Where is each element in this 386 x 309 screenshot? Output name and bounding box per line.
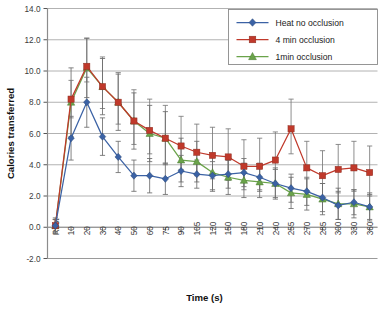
x-axis-tick-label: 180 (240, 221, 249, 235)
x-axis: Rest102030405060759010512015018021024025… (48, 218, 378, 236)
x-axis-tick-label: 240 (272, 221, 281, 235)
data-point-diamond (178, 167, 185, 174)
data-point-diamond (162, 175, 169, 182)
x-axis-tick-label: 40 (114, 226, 123, 236)
y-axis-tick-label: 14.0 (25, 5, 41, 14)
data-point-diamond (241, 169, 248, 176)
x-axis-tick-label: 285 (319, 221, 328, 235)
y-axis-tick-label: -2.0 (26, 255, 41, 264)
x-axis-tick-label: 60 (146, 226, 155, 236)
y-axis-tick-label: 2.0 (29, 192, 41, 201)
data-point-square (272, 157, 278, 163)
line-chart: 14.012.010.08.06.04.02.00.0-2.0Rest10203… (0, 0, 386, 309)
data-point-diamond (288, 185, 295, 192)
data-point-square (99, 84, 105, 90)
data-point-square (225, 154, 231, 160)
y-axis-tick-label: 8.0 (29, 98, 41, 107)
legend-label: 1min occlusion (276, 52, 333, 62)
data-point-square (147, 127, 153, 133)
y-axis-tick-label: 0.0 (29, 223, 41, 232)
legend-item-heat-no-occlusion[interactable]: Heat no occlusion (237, 18, 345, 28)
data-point-square (304, 165, 310, 171)
x-axis-tick-label: 255 (287, 221, 296, 235)
data-point-square (209, 152, 215, 158)
data-point-square (241, 163, 247, 169)
data-point-square (288, 126, 294, 132)
data-point-square (335, 166, 341, 172)
x-axis-tick-label: 360 (366, 221, 375, 235)
data-point-square (194, 149, 200, 155)
data-point-diamond (194, 171, 201, 178)
y-axis-tick-label: 4.0 (29, 161, 41, 170)
data-point-square (162, 135, 168, 141)
data-point-square (351, 165, 357, 171)
data-point-square (367, 169, 373, 175)
x-axis-tick-label: 105 (193, 221, 202, 235)
chart-container: 14.012.010.08.06.04.02.00.0-2.0Rest10203… (0, 0, 386, 309)
data-point-square (84, 63, 90, 69)
data-point-diamond (256, 174, 263, 181)
y-axis-tick-label: 12.0 (25, 36, 41, 45)
x-axis-tick-label: 20 (83, 226, 92, 236)
x-axis-tick-label: 10 (67, 226, 76, 236)
data-point-diamond (68, 135, 75, 142)
x-axis-tick-label: 90 (177, 226, 186, 236)
x-axis-tick-label: 75 (162, 226, 171, 236)
x-axis-tick-label: 150 (224, 221, 233, 235)
data-point-square (68, 96, 74, 102)
x-axis-tick-label: 120 (209, 221, 218, 235)
data-point-square (131, 118, 137, 124)
y-axis-tick-label: 10.0 (25, 67, 41, 76)
legend: Heat no occlusion4 min occlusion1min occ… (229, 10, 378, 65)
y-axis-title: Calories transferred (5, 88, 16, 179)
data-point-diamond (146, 172, 153, 179)
legend-label: Heat no occlusion (276, 18, 345, 28)
x-axis-tick-label: 330 (350, 221, 359, 235)
x-axis-tick-label: 300 (334, 221, 343, 235)
legend-label: 4 min occlusion (276, 35, 335, 45)
x-axis-tick-label: 210 (256, 221, 265, 235)
data-point-square (257, 163, 263, 169)
x-axis-title: Time (s) (186, 292, 223, 303)
x-axis-tick-label: 270 (303, 221, 312, 235)
x-axis-tick-label: 50 (130, 226, 139, 236)
data-point-square (115, 99, 121, 105)
x-axis-tick-label: 30 (99, 226, 108, 236)
data-point-square (319, 173, 325, 179)
data-point-diamond (84, 99, 91, 106)
data-point-square (249, 36, 256, 43)
y-axis-tick-label: 6.0 (29, 130, 41, 139)
data-point-square (178, 143, 184, 149)
